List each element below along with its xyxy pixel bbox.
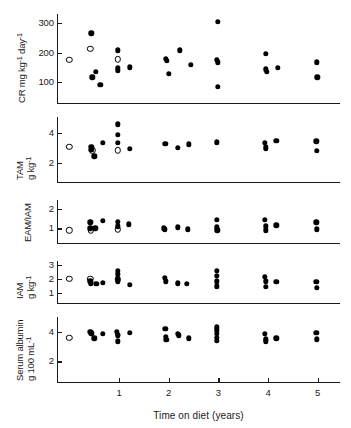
data-point-albumin-19	[214, 338, 219, 343]
x-tick-3	[218, 378, 219, 382]
x-tick-2	[169, 378, 170, 382]
x-tick-label-1: 1	[116, 388, 121, 398]
data-point-cr-7	[127, 65, 132, 70]
data-point-albumin-25	[314, 336, 319, 341]
data-point-cr-3	[97, 82, 102, 87]
y-tick-cr-200	[58, 53, 62, 54]
data-point-albumin-2	[92, 336, 97, 341]
data-point-albumin-11	[164, 337, 169, 342]
data-point-cr-22	[314, 74, 319, 79]
data-point-open-iam-2	[114, 276, 120, 282]
scatter-figure: 300200100CR mg kg-1 day-142TAMg kg-121EA…	[0, 0, 351, 428]
y-axis-eam_iam	[57, 200, 58, 244]
data-point-iam-14	[214, 273, 219, 278]
y-axis-label-albumin: Serum albuming 100 mL-1	[14, 320, 36, 381]
data-point-iam-5	[115, 272, 120, 277]
x-axis-label: Time on diet (years)	[153, 410, 244, 421]
y-tick-albumin-2	[58, 361, 62, 362]
y-tick-label-cr-200: 200	[31, 48, 54, 58]
data-point-albumin-16	[214, 328, 219, 333]
x-tick-1	[119, 378, 120, 382]
x-axis-tam	[57, 182, 340, 183]
data-point-tam-13	[263, 144, 268, 149]
y-tick-label-iam-1: 1	[31, 288, 54, 298]
data-point-iam-16	[214, 283, 219, 288]
data-point-eam_iam-7	[161, 226, 166, 231]
data-point-open-cr-2	[114, 56, 120, 62]
data-point-eam_iam-10	[185, 227, 190, 232]
data-point-eam_iam-13	[215, 228, 220, 233]
data-point-eam_iam-19	[314, 227, 319, 232]
y-tick-label-albumin-4: 4	[31, 327, 54, 337]
data-point-cr-13	[215, 19, 220, 24]
data-point-iam-17	[262, 274, 267, 279]
data-point-cr-15	[215, 60, 220, 65]
panel-tam: 42TAMg kg-1	[0, 0, 351, 428]
data-point-cr-11	[177, 47, 182, 52]
data-point-albumin-3	[100, 331, 105, 336]
data-point-cr-17	[263, 51, 268, 56]
data-point-albumin-18	[214, 335, 219, 340]
data-point-cr-1	[90, 74, 95, 79]
data-point-cr-21	[314, 60, 319, 65]
data-point-eam_iam-18	[313, 220, 318, 225]
y-tick-tam-4	[58, 133, 62, 134]
data-point-tam-15	[274, 138, 279, 143]
data-point-open-tam-1	[89, 147, 95, 153]
data-point-iam-22	[314, 285, 319, 290]
y-tick-label-eam_iam-2: 2	[31, 204, 54, 214]
data-point-cr-16	[215, 84, 220, 89]
data-point-cr-20	[275, 65, 280, 70]
data-point-tam-6	[115, 140, 120, 145]
data-point-eam_iam-1	[88, 226, 93, 231]
y-axis-tam	[57, 117, 58, 183]
panel-iam: 321IAMg kg-1	[0, 0, 351, 428]
data-point-open-iam-0	[66, 275, 72, 281]
data-point-eam_iam-2	[93, 226, 98, 231]
data-point-tam-16	[313, 139, 318, 144]
data-point-eam_iam-14	[262, 217, 267, 222]
data-point-cr-12	[188, 62, 193, 67]
x-axis-eam_iam	[57, 243, 340, 244]
data-point-iam-12	[184, 281, 189, 286]
x-axis-albumin	[57, 382, 340, 383]
data-point-tam-5	[115, 132, 120, 137]
data-point-cr-18	[263, 67, 268, 72]
data-point-iam-8	[127, 282, 132, 287]
data-point-albumin-22	[263, 339, 268, 344]
data-point-open-tam-2	[114, 147, 120, 153]
data-point-albumin-4	[114, 329, 119, 334]
panel-cr: 300200100CR mg kg-1 day-1	[0, 0, 351, 428]
y-axis-albumin	[57, 317, 58, 383]
data-point-open-eam_iam-0	[66, 227, 72, 233]
data-point-iam-19	[263, 284, 268, 289]
data-point-iam-11	[175, 281, 180, 286]
data-point-albumin-0	[88, 329, 93, 334]
data-point-albumin-21	[263, 336, 268, 341]
data-point-tam-4	[115, 122, 120, 127]
data-point-iam-3	[100, 280, 105, 285]
y-axis-label-iam: IAMg kg-1	[14, 276, 36, 299]
data-point-eam_iam-16	[263, 228, 268, 233]
y-tick-label-iam-2: 2	[31, 274, 54, 284]
data-point-albumin-7	[115, 339, 120, 344]
data-point-open-eam_iam-2	[114, 226, 120, 232]
data-point-cr-8	[163, 56, 168, 61]
y-tick-iam-1	[58, 293, 62, 294]
data-point-tam-17	[314, 148, 319, 153]
data-point-eam_iam-9	[175, 225, 180, 230]
y-tick-eam_iam-2	[58, 209, 62, 210]
data-point-albumin-14	[186, 336, 191, 341]
data-point-albumin-13	[176, 333, 181, 338]
y-tick-tam-2	[58, 163, 62, 164]
data-point-tam-8	[163, 141, 168, 146]
y-axis-label-text: CR mg kg-1 day-1	[16, 33, 27, 103]
data-point-iam-18	[263, 279, 268, 284]
x-tick-label-2: 2	[166, 388, 171, 398]
data-point-albumin-12	[175, 331, 180, 336]
y-tick-label-tam-2: 2	[31, 158, 54, 168]
data-point-tam-9	[175, 145, 180, 150]
data-point-tam-12	[262, 140, 267, 145]
data-point-cr-4	[115, 48, 120, 53]
y-axis-label-text: EAM/IAM	[22, 203, 33, 242]
